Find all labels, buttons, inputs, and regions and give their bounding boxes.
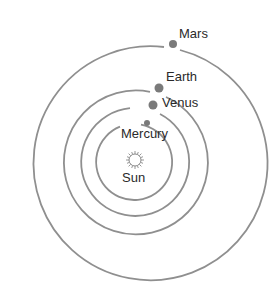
sun-label: Sun	[122, 171, 145, 184]
mars-orbit	[33, 46, 267, 280]
venus-dot	[149, 101, 158, 110]
mercury-label: Mercury	[121, 127, 168, 140]
solar-system-diagram	[0, 0, 279, 291]
mars-label: Mars	[179, 27, 208, 40]
mars-dot	[169, 40, 177, 48]
orbits	[33, 46, 267, 280]
sun-icon	[126, 151, 144, 169]
earth-label: Earth	[166, 70, 197, 83]
earth-dot	[155, 84, 164, 93]
venus-label: Venus	[162, 96, 198, 109]
